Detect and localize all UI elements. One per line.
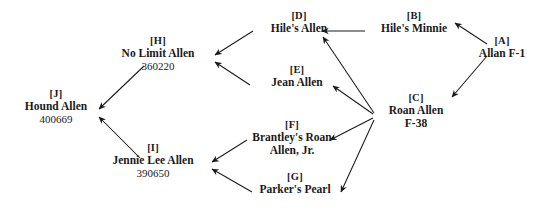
node-a-name: Allan F-1: [466, 47, 538, 60]
edge-c-to-e: [333, 86, 373, 114]
node-b: [B] Hile's Minnie: [360, 10, 468, 35]
node-g: [G] Parker's Pearl: [243, 171, 347, 196]
node-b-name: Hile's Minnie: [360, 22, 468, 35]
node-i: [I] Jennie Lee Allen 390650: [96, 142, 210, 179]
node-h-registration: 360220: [104, 60, 212, 72]
node-a: [A] Allan F-1: [466, 35, 538, 60]
node-c-tag: [C]: [375, 92, 457, 104]
node-d: [D] Hile's Allen: [249, 10, 349, 35]
node-f-name2: Allen, Jr.: [236, 144, 348, 157]
node-c-name2: F-38: [375, 117, 457, 130]
node-f: [F] Brantley's Roan Allen, Jr.: [236, 119, 348, 157]
node-i-registration: 390650: [96, 167, 210, 179]
node-f-tag: [F]: [236, 119, 348, 131]
node-i-tag: [I]: [96, 142, 210, 154]
node-j-tag: [J]: [12, 88, 100, 100]
node-e: [E] Jean Allen: [250, 64, 344, 89]
edge-e-to-h: [215, 62, 250, 85]
node-i-name: Jennie Lee Allen: [96, 154, 210, 167]
node-d-name: Hile's Allen: [249, 22, 349, 35]
node-h-name: No Limit Allen: [104, 47, 212, 60]
edge-d-to-h: [215, 31, 253, 55]
node-d-tag: [D]: [249, 10, 349, 22]
edge-h-to-j: [99, 66, 144, 109]
node-j: [J] Hound Allen 400669: [12, 88, 100, 125]
node-h: [H] No Limit Allen 360220: [104, 35, 212, 72]
node-e-tag: [E]: [250, 64, 344, 76]
node-b-tag: [B]: [360, 10, 468, 22]
node-h-tag: [H]: [104, 35, 212, 47]
node-g-tag: [G]: [243, 171, 347, 183]
pedigree-diagram: [A] Allan F-1 [B] Hile's Minnie [C] Roan…: [0, 0, 544, 213]
node-g-name: Parker's Pearl: [243, 183, 347, 196]
node-j-name: Hound Allen: [12, 100, 100, 113]
edge-a-to-c: [452, 56, 487, 97]
node-c-name: Roan Allen: [375, 104, 457, 117]
node-f-name: Brantley's Roan: [236, 131, 348, 144]
node-a-tag: [A]: [466, 35, 538, 47]
node-j-registration: 400669: [12, 113, 100, 125]
node-e-name: Jean Allen: [250, 76, 344, 89]
node-c: [C] Roan Allen F-38: [375, 92, 457, 130]
